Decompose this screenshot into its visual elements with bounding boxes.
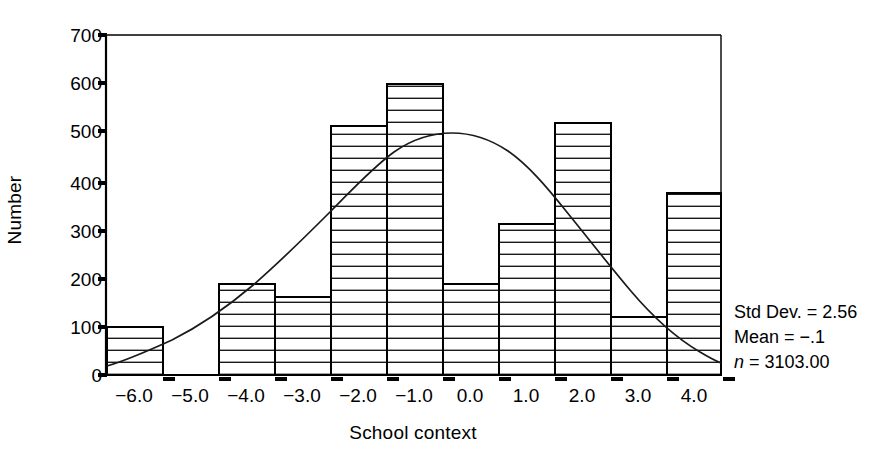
bar-2 [555, 123, 611, 375]
bar-neg6 [107, 327, 163, 375]
histogram-bars [107, 84, 721, 375]
bar-neg2 [331, 126, 387, 375]
bar-0 [443, 284, 499, 375]
bar-neg4 [219, 284, 275, 375]
bar-3 [611, 317, 667, 375]
plot-canvas [0, 0, 887, 458]
histogram-figure: Number 0 100 200 300 400 500 600 700 −6.… [0, 0, 887, 458]
x-axis-ticks [163, 377, 735, 381]
bar-neg1 [387, 84, 443, 375]
bar-1 [499, 224, 555, 375]
bar-neg3 [275, 297, 331, 375]
